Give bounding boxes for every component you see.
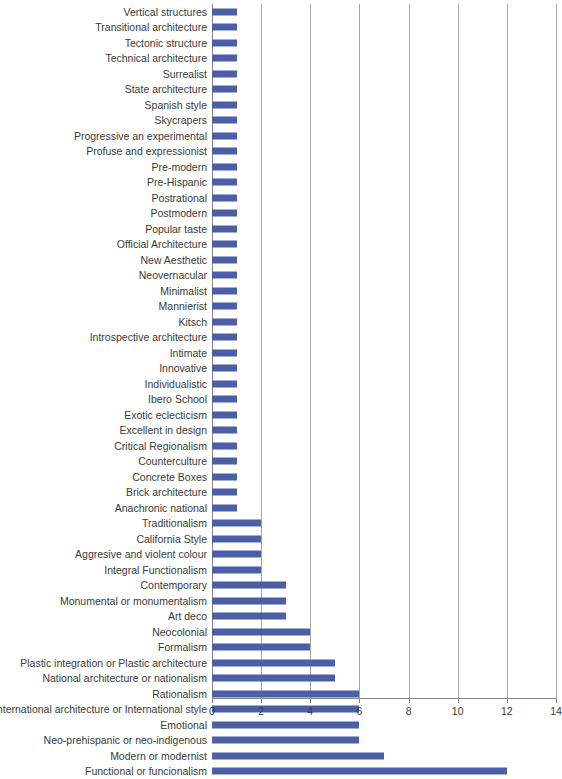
category-label: Exotic eclecticism (124, 410, 207, 421)
plot-area (212, 4, 556, 698)
category-label-row: Transitional architecture (0, 20, 210, 36)
category-label: Modern or modernist (110, 751, 207, 762)
bar-row (212, 593, 556, 609)
bar (212, 737, 359, 744)
bar (212, 442, 237, 449)
category-label: Critical Regionalism (114, 441, 207, 452)
category-label: Integral Functionalism (104, 565, 207, 576)
bar-row (212, 500, 556, 516)
category-label: Kitsch (178, 317, 207, 328)
x-tick-mark-8 (409, 698, 410, 703)
category-label-row: State architecture (0, 82, 210, 98)
bar-row (212, 376, 556, 392)
bar (212, 163, 237, 170)
bar-row (212, 128, 556, 144)
bar (212, 644, 310, 651)
category-label: Pre-Hispanic (147, 177, 207, 188)
bar (212, 210, 237, 217)
category-label: Surrealist (163, 69, 207, 80)
bar-row (212, 547, 556, 563)
bar (212, 427, 237, 434)
bar (212, 117, 237, 124)
category-label-row: Pre-modern (0, 159, 210, 175)
category-label: Technical architecture (105, 53, 207, 64)
category-label: Introspective architecture (90, 332, 207, 343)
x-tick-label: 14 (550, 705, 562, 717)
category-label: Official Architecture (117, 239, 207, 250)
x-tick-label: 2 (258, 705, 264, 717)
category-label-row: Traditionalism (0, 516, 210, 532)
bar (212, 551, 261, 558)
x-tick-label: 12 (501, 705, 513, 717)
bar (212, 380, 237, 387)
bar (212, 721, 359, 728)
bar-row (212, 35, 556, 51)
category-label: State architecture (125, 84, 207, 95)
bar (212, 39, 237, 46)
category-label-row: Profuse and expressionist (0, 144, 210, 160)
bar-row (212, 562, 556, 578)
category-label: Ibero School (148, 394, 207, 405)
category-label: Neocolonial (152, 627, 207, 638)
bar (212, 365, 237, 372)
category-label: Profuse and expressionist (86, 146, 207, 157)
bar (212, 520, 261, 527)
category-label: Functional or funcionalism (85, 766, 207, 777)
bar-row (212, 237, 556, 253)
category-label-row: Brick architecture (0, 485, 210, 501)
category-label: Tectonic structure (125, 38, 207, 49)
bar-row (212, 423, 556, 439)
bar-row (212, 671, 556, 687)
category-label: Counterculture (138, 456, 207, 467)
bar-row (212, 361, 556, 377)
category-label: Popular taste (145, 224, 207, 235)
category-label: Individualistic (145, 379, 207, 390)
bar (212, 86, 237, 93)
x-tick-mark-2 (261, 698, 262, 703)
bar (212, 8, 237, 15)
category-label-row: Individualistic (0, 376, 210, 392)
category-label-row: Neo-prehispanic or neo-indigenous (0, 733, 210, 749)
category-label: Intimate (170, 348, 207, 359)
x-tick-mark-0 (212, 698, 213, 703)
category-label-row: Excellent in design (0, 423, 210, 439)
category-label-row: Minimalist (0, 283, 210, 299)
bar (212, 256, 237, 263)
bar (212, 752, 384, 759)
x-tick-mark-12 (507, 698, 508, 703)
bar-row (212, 144, 556, 160)
category-label: New Aesthetic (140, 255, 207, 266)
bar (212, 303, 237, 310)
category-label: Transitional architecture (95, 22, 207, 33)
category-label: Mannierist (159, 301, 207, 312)
category-label-row: Functional or funcionalism (0, 764, 210, 779)
category-label-row: Aggresive and violent colour (0, 547, 210, 563)
bar-row (212, 392, 556, 408)
bar-row (212, 485, 556, 501)
bar-row (212, 314, 556, 330)
bar (212, 659, 335, 666)
category-label: Formalism (158, 642, 207, 653)
bar-row (212, 454, 556, 470)
bar-row (212, 82, 556, 98)
category-label: Pre-modern (152, 162, 207, 173)
category-label-row: Intimate (0, 345, 210, 361)
bar-row (212, 531, 556, 547)
category-label: Vertical structures (124, 7, 207, 18)
category-label-row: Official Architecture (0, 237, 210, 253)
bar-row (212, 748, 556, 764)
category-label: Emotional (160, 720, 207, 731)
category-label: International architecture or Internatio… (0, 704, 207, 715)
category-label: Innovative (159, 363, 207, 374)
bar (212, 179, 237, 186)
x-tick-mark-10 (458, 698, 459, 703)
bar (212, 613, 286, 620)
category-label: National architecture or nationalism (42, 673, 207, 684)
bar (212, 24, 237, 31)
category-label-row: Postmodern (0, 206, 210, 222)
x-tick-mark-6 (359, 698, 360, 703)
category-label-row: Exotic eclecticism (0, 407, 210, 423)
x-tick-label: 0 (209, 705, 215, 717)
bar (212, 318, 237, 325)
category-label: Excellent in design (119, 425, 207, 436)
